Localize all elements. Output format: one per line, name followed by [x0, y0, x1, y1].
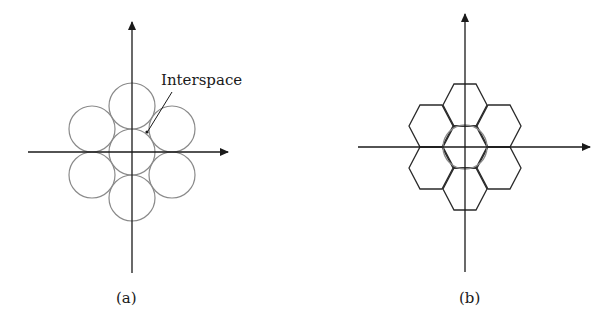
interspace-label: Interspace — [161, 71, 242, 89]
panel-b-caption: (b) — [459, 289, 480, 307]
panel-b: (b) — [358, 14, 590, 307]
panel-a-caption: (a) — [116, 289, 137, 307]
figure-canvas: Interspace (a) (b) — [0, 0, 616, 329]
circle-lower-left — [69, 152, 115, 198]
circle-upper-right — [149, 106, 195, 152]
panel-a: Interspace (a) — [28, 22, 242, 307]
circle-lower-right — [149, 152, 195, 198]
interspace-marker-dot — [145, 130, 148, 133]
interspace-leader-line — [148, 92, 172, 131]
circle-upper-left — [69, 106, 115, 152]
